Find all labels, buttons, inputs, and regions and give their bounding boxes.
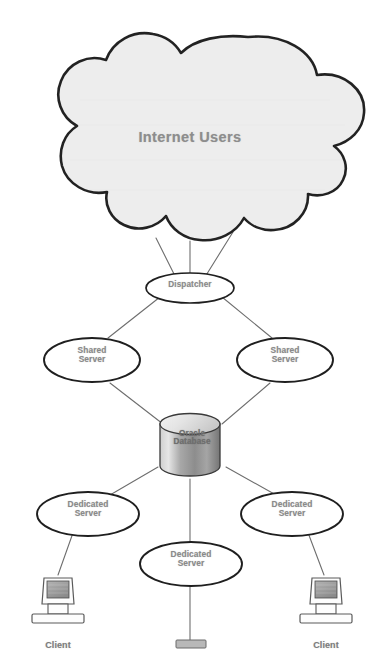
node-dedicated-server-left[interactable]	[37, 492, 139, 536]
link-shared-right-database	[222, 383, 270, 424]
dedicated-server-left-ellipse	[37, 492, 139, 536]
dispatcher-ellipse	[146, 273, 234, 303]
dedicated-server-center-ellipse	[140, 542, 242, 586]
node-oracle-database[interactable]	[160, 414, 220, 477]
node-internet-users-cloud[interactable]	[58, 33, 364, 240]
link-cloud-dispatcher-1	[156, 238, 175, 276]
node-dedicated-server-right[interactable]	[241, 492, 343, 536]
link-dispatcher-shared-right	[222, 297, 272, 338]
link-shared-left-database	[110, 383, 163, 424]
computer-icon	[32, 578, 84, 623]
link-dedicated-left-client-left	[58, 530, 74, 575]
node-client-left[interactable]	[32, 578, 84, 623]
node-dispatcher[interactable]	[146, 273, 234, 303]
link-database-dedicated-right	[226, 467, 276, 495]
link-dedicated-right-client-right	[307, 530, 324, 575]
database-cylinder-top	[160, 414, 220, 435]
computer-icon	[176, 640, 206, 648]
node-client-center[interactable]	[176, 640, 206, 648]
node-shared-server-left[interactable]	[44, 338, 140, 382]
client-center-base	[176, 640, 206, 648]
node-client-right[interactable]	[300, 578, 352, 623]
shared-server-left-ellipse	[44, 338, 140, 382]
cloud-shape	[58, 33, 364, 240]
node-dedicated-server-center[interactable]	[140, 542, 242, 586]
link-database-dedicated-left	[110, 467, 158, 495]
node-shared-server-right[interactable]	[237, 338, 333, 382]
network-diagram: Internet Users Dispatcher Shared Server …	[0, 0, 380, 669]
computer-icon	[300, 578, 352, 623]
diagram-canvas	[0, 0, 380, 669]
dedicated-server-right-ellipse	[241, 492, 343, 536]
link-dispatcher-shared-left	[108, 297, 160, 338]
shared-server-right-ellipse	[237, 338, 333, 382]
